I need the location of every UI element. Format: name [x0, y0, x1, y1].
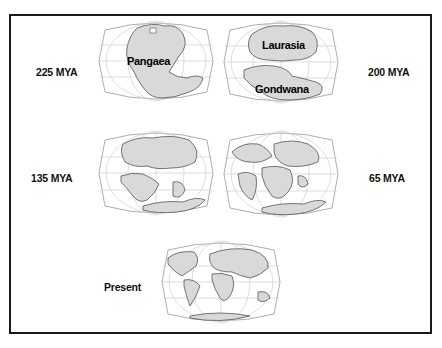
map-label-pangaea: Pangaea — [127, 55, 170, 67]
map-label-gondwana: Gondwana — [255, 83, 309, 95]
era-label-65-mya: 65 MYA — [369, 172, 405, 184]
era-label-225-mya: 225 MYA — [36, 66, 77, 78]
map-225-mya: Pangaea — [97, 20, 215, 102]
map-present — [160, 240, 282, 325]
map-label-laurasia: Laurasia — [262, 39, 305, 51]
era-label-present: Present — [104, 281, 141, 293]
map-65-mya — [222, 130, 340, 218]
era-label-135-mya: 135 MYA — [31, 172, 72, 184]
paleogene-map-icon — [222, 130, 340, 218]
present-world-map-icon — [160, 240, 282, 325]
cretaceous-map-icon — [97, 130, 215, 216]
map-200-mya: Laurasia Gondwana — [222, 20, 340, 104]
map-135-mya — [97, 130, 215, 216]
era-label-200-mya: 200 MYA — [368, 66, 409, 78]
